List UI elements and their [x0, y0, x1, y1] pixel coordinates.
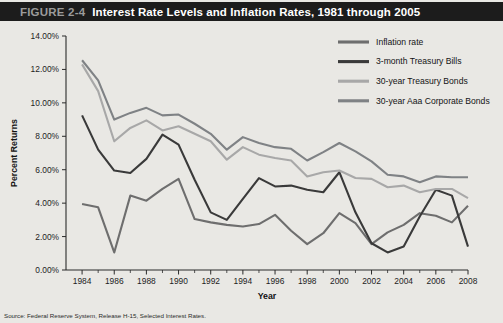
figure-container: FIGURE 2-4 Interest Rate Levels and Infl…	[0, 0, 503, 323]
legend-item: Inflation rate	[338, 37, 424, 47]
legend-item: 30-year Aaa Corporate Bonds	[338, 96, 490, 106]
x-tick-label: 1994	[234, 276, 253, 286]
x-tick-label: 2006	[427, 276, 446, 286]
x-tick-label: 2002	[362, 276, 381, 286]
chart-plot-area: 0.00%2.00%4.00%6.00%8.00%10.00%12.00%14.…	[0, 21, 503, 309]
x-tick-label: 1998	[298, 276, 317, 286]
y-tick-label: 6.00%	[35, 165, 59, 175]
x-tick-label: 1984	[73, 276, 92, 286]
legend-label: Inflation rate	[376, 37, 424, 47]
y-tick-label: 4.00%	[35, 198, 59, 208]
y-tick-label: 12.00%	[31, 64, 60, 74]
series-line	[82, 179, 468, 253]
y-axis-tick-labels: 0.00%2.00%4.00%6.00%8.00%10.00%12.00%14.…	[31, 31, 60, 275]
chart-legend: Inflation rate3-month Treasury Bills30-y…	[338, 37, 490, 106]
x-tick-label: 1996	[266, 276, 285, 286]
y-tick-label: 10.00%	[31, 98, 60, 108]
y-tick-label: 14.00%	[31, 31, 60, 41]
y-tick-label: 8.00%	[35, 131, 59, 141]
legend-item: 30-year Treasury Bonds	[338, 76, 468, 86]
x-tick-label: 1986	[105, 276, 124, 286]
x-axis-title: Year	[258, 291, 277, 301]
x-tick-label: 2008	[459, 276, 478, 286]
legend-item: 3-month Treasury Bills	[338, 56, 462, 66]
figure-number-label: FIGURE 2-4	[20, 6, 85, 18]
x-tick-label: 2000	[330, 276, 349, 286]
y-tick-label: 0.00%	[35, 265, 59, 275]
figure-title: Interest Rate Levels and Inflation Rates…	[92, 6, 420, 18]
x-tick-label: 1992	[201, 276, 220, 286]
legend-label: 30-year Aaa Corporate Bonds	[376, 96, 490, 106]
source-note: Source: Federal Reserve System, Release …	[4, 312, 206, 319]
x-tick-label: 2004	[394, 276, 413, 286]
y-axis-ticks	[62, 36, 66, 270]
series-line	[82, 115, 468, 252]
line-chart: 0.00%2.00%4.00%6.00%8.00%10.00%12.00%14.…	[0, 21, 503, 309]
x-tick-label: 1990	[169, 276, 188, 286]
y-axis-title: Percent Returns	[9, 119, 19, 187]
legend-label: 3-month Treasury Bills	[376, 56, 462, 66]
y-tick-label: 2.00%	[35, 232, 59, 242]
x-tick-label: 1988	[137, 276, 156, 286]
x-axis-ticks	[82, 270, 468, 275]
x-axis-tick-labels: 1984198619881990199219941996199820002002…	[73, 276, 478, 286]
figure-title-bar: FIGURE 2-4 Interest Rate Levels and Infl…	[0, 2, 503, 21]
legend-label: 30-year Treasury Bonds	[376, 76, 468, 86]
data-series-group	[82, 60, 468, 252]
